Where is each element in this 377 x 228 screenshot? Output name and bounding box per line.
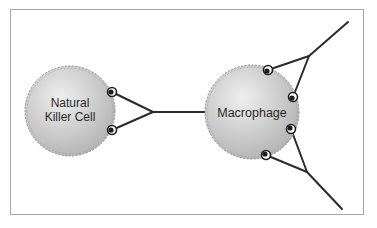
nk-cell-label-line2: Killer Cell xyxy=(45,110,96,124)
receptor-icon xyxy=(289,93,298,102)
mac-upper-fork-b xyxy=(293,56,309,97)
cell-interaction-diagram: Natural Killer Cell Macrophage xyxy=(0,0,377,228)
mac-upper-fork-a xyxy=(268,56,309,70)
nk-fork-lower xyxy=(112,112,153,130)
nk-fork-upper xyxy=(112,92,153,112)
receptor-icon xyxy=(287,125,296,134)
receptor-icon xyxy=(262,151,271,160)
macrophage-label: Macrophage xyxy=(217,106,287,120)
receptor-icon xyxy=(108,126,117,135)
mac-lower-stem xyxy=(307,172,342,209)
receptor-icon xyxy=(264,66,273,75)
macrophage-cell: Macrophage xyxy=(205,65,299,159)
receptor-icon xyxy=(108,88,117,97)
mac-upper-stem xyxy=(309,22,348,56)
nk-cell-label-line1: Natural xyxy=(51,96,90,110)
nk-cell: Natural Killer Cell xyxy=(25,66,115,156)
